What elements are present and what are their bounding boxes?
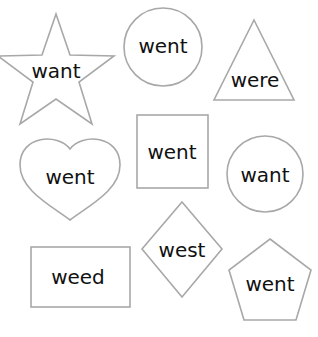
square-word: went — [147, 140, 196, 164]
triangle-word: were — [231, 68, 280, 92]
heart-word: went — [45, 165, 94, 189]
diamond-word: west — [159, 238, 206, 262]
square-shape: went — [137, 115, 208, 188]
shapes-worksheet: want went were went went want weed west … — [0, 0, 318, 337]
circle-shape-right: want — [227, 136, 303, 212]
diamond-shape: west — [142, 202, 222, 297]
heart-shape: went — [20, 139, 120, 220]
triangle-shape: were — [214, 20, 294, 100]
pentagon-word: went — [245, 272, 294, 296]
circle-top-word: went — [138, 34, 187, 58]
star-shape: want — [0, 14, 114, 124]
pentagon-shape: went — [229, 239, 311, 320]
star-word: want — [31, 59, 80, 83]
circle-right-word: want — [240, 163, 289, 187]
rectangle-shape: weed — [31, 247, 130, 307]
rectangle-word: weed — [51, 265, 105, 289]
circle-shape-top: went — [124, 8, 202, 86]
